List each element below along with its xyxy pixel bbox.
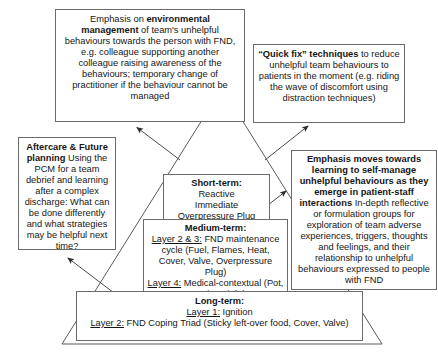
environmental-management-text: Emphasis on environmental management of … [61,14,239,102]
medium-term-layer-4-row: Layer 4: Medical-contextual (Pot, Warnin… [147,278,284,292]
environmental-management-body: of team's unhelpful behaviours towards t… [65,25,236,101]
aftercare-body: Using the PCM for a team debrief and lea… [25,153,110,250]
short-term-heading: Short-term: [191,178,242,188]
aftercare-text: Aftercare & Future planning Using the PC… [23,142,111,250]
long-term-layer-1-text: Ignition [220,307,253,317]
environmental-management-box: Emphasis on environmental management of … [55,9,245,122]
self-manage-text: Emphasis moves towards learning to self-… [296,154,432,286]
short-term-line-2: Immediate [167,200,266,211]
long-term-heading: Long-term: [195,296,244,306]
quick-fix-box: “Quick fix” techniques to reduce unhelpf… [253,44,405,123]
medium-term-layer-4-label: Layer 4: [148,278,182,288]
arrow-to-environmental-management [137,128,180,161]
long-term-layer-2-label: Layer 2: [90,318,124,328]
short-term-line-1: Reactive [167,189,266,200]
self-manage-body: In-depth reflective or formulation group… [298,198,430,285]
environmental-management-lead-prefix: Emphasis on [90,14,146,24]
quick-fix-text: “Quick fix” techniques to reduce unhelpf… [258,49,400,104]
long-term-layer-2-text: FND Coping Triad (Sticky left-over food,… [124,318,349,328]
medium-term-box: Medium-term: Layer 2 & 3: FND maintenanc… [143,219,288,292]
diagram-canvas: Emphasis on environmental management of … [0,0,438,359]
long-term-box: Long-term: Layer 1: Ignition Layer 2: FN… [76,291,363,341]
aftercare-future-planning-box: Aftercare & Future planning Using the PC… [18,137,116,250]
long-term-layer-2-row: Layer 2: FND Coping Triad (Sticky left-o… [81,318,358,329]
medium-term-layer-4-text: Medical-contextual (Pot, Warning Light) [181,278,283,292]
medium-term-heading: Medium-term: [185,223,246,233]
short-term-heading-row: Short-term: [167,178,266,189]
medium-term-layer-23-row: Layer 2 & 3: FND maintenance cycle (Fuel… [147,234,284,278]
medium-term-layer-23-label: Layer 2 & 3: [152,234,202,244]
medium-term-heading-row: Medium-term: [147,223,284,234]
short-term-box: Short-term: Reactive Immediate Overpress… [163,174,270,224]
long-term-heading-row: Long-term: [81,296,358,307]
self-manage-box: Emphasis moves towards learning to self-… [291,150,437,290]
long-term-layer-1-row: Layer 1: Ignition [81,307,358,318]
long-term-layer-1-label: Layer 1: [186,307,220,317]
quick-fix-lead-bold: “Quick fix” techniques [258,49,358,59]
